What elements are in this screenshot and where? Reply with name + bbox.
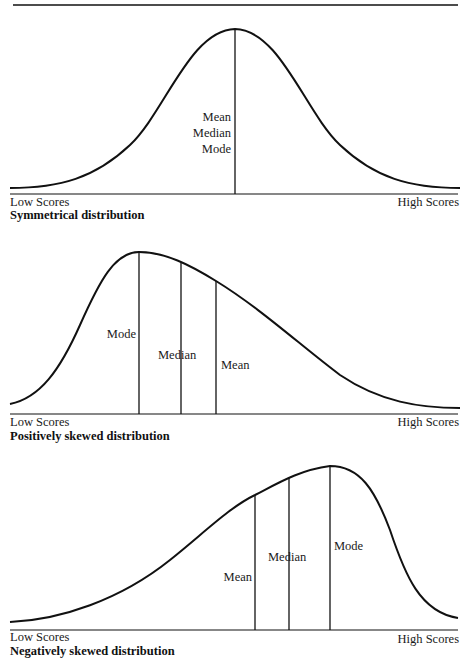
mode-label: Mode — [334, 539, 363, 553]
positive-skew-caption: Positively skewed distribution — [10, 429, 170, 443]
symmetrical-caption: Symmetrical distribution — [10, 208, 144, 222]
mean-label: Mean — [221, 358, 249, 372]
negative-skew-panel — [10, 466, 458, 630]
symmetrical-panel — [10, 29, 460, 194]
negative-skew-curve — [10, 466, 458, 622]
positive-skew-curve — [10, 252, 460, 408]
low-scores-label: Low Scores — [10, 415, 69, 429]
median-label: Median — [268, 550, 306, 564]
mean-label: Mean — [224, 570, 252, 584]
median-label: Median — [158, 348, 196, 362]
mean-label: Mean — [203, 110, 231, 124]
negative-skew-caption: Negatively skewed distribution — [10, 644, 175, 658]
median-label: Median — [193, 126, 231, 140]
low-scores-label: Low Scores — [10, 630, 69, 644]
distribution-figure — [0, 0, 468, 659]
mode-label: Mode — [107, 327, 136, 341]
high-scores-label: High Scores — [398, 632, 459, 646]
positive-skew-panel — [10, 252, 460, 414]
high-scores-label: High Scores — [398, 195, 459, 209]
low-scores-label: Low Scores — [10, 195, 69, 209]
high-scores-label: High Scores — [398, 415, 459, 429]
mode-label: Mode — [202, 142, 231, 156]
